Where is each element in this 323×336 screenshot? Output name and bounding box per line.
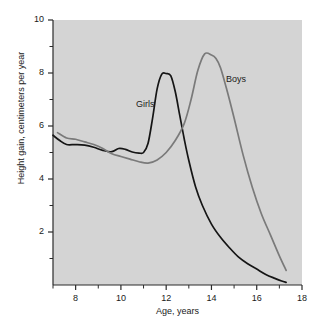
- y-tick-10: 10: [24, 14, 44, 24]
- chart-canvas: [0, 0, 323, 336]
- x-tick-16: 16: [247, 293, 267, 303]
- y-tick-8: 8: [24, 67, 44, 77]
- y-tick-4: 4: [24, 173, 44, 183]
- x-tick-18: 18: [292, 293, 312, 303]
- axes-group: [48, 20, 302, 290]
- series-label-boys: Boys: [226, 74, 246, 84]
- y-tick-2: 2: [24, 226, 44, 236]
- series-label-girls: Girls: [136, 99, 155, 109]
- x-tick-14: 14: [201, 293, 221, 303]
- growth-velocity-chart: 246810 81012141618 Height gain, centimet…: [0, 0, 323, 336]
- x-axis-title: Age, years: [53, 306, 302, 316]
- x-tick-8: 8: [66, 293, 86, 303]
- y-tick-6: 6: [24, 120, 44, 130]
- y-axis-title: Height gain, centimeters per year: [16, 33, 26, 203]
- x-tick-12: 12: [156, 293, 176, 303]
- x-tick-10: 10: [111, 293, 131, 303]
- series-group: [53, 53, 286, 282]
- series-line-girls: [53, 73, 286, 282]
- series-line-boys: [58, 53, 287, 271]
